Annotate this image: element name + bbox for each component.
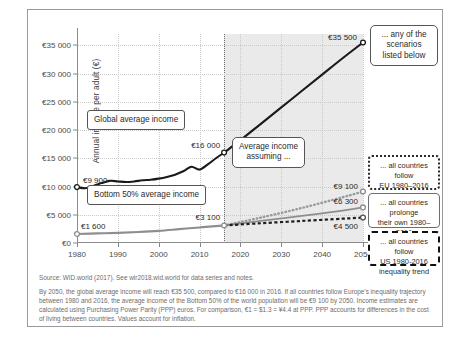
scenario-own-line-1: ... all countries prolonge	[374, 198, 434, 218]
scenario-eu-line-1: ... all countries follow	[375, 161, 433, 181]
assuming-line-1: Average income	[239, 142, 298, 152]
x-tick-label: 1990	[109, 250, 127, 259]
value-label-global-2050: €35 500	[328, 33, 357, 42]
callout-average-income-assuming: Average income assuming ...	[232, 137, 305, 168]
data-point-marker	[222, 150, 227, 155]
source-line: Source: WID.world (2017). See wir2018.wi…	[39, 273, 432, 282]
scenario-us-line-2: US 1980-2016	[375, 257, 433, 267]
plot-area: €0€5 000€10 000€15 000€20 000€25 000€30 …	[77, 34, 363, 243]
gridline-vertical	[363, 34, 364, 243]
y-tick-label: €15 000	[42, 154, 71, 163]
callout-global-average-income: Global average income	[87, 110, 185, 130]
y-tick-label: €10 000	[42, 182, 71, 191]
value-label-bottom-2016: €3 100	[196, 213, 220, 222]
x-tick-mark	[322, 243, 323, 247]
y-tick-label: €35 000	[42, 41, 71, 50]
y-tick-label: €30 000	[42, 69, 71, 78]
x-tick-mark	[159, 243, 160, 247]
note-body: By 2050, the global average income will …	[39, 287, 432, 323]
data-point-marker	[361, 40, 366, 45]
scenarios-line-1: ... any of the	[377, 30, 431, 40]
scenarios-line-3: listed below	[377, 51, 431, 61]
x-tick-label: 2020	[232, 250, 250, 259]
legend-scenario-us-trend: ... all countries follow US 1980-2016 in…	[368, 231, 440, 266]
scenarios-line-2: scenarios	[377, 40, 431, 50]
value-label-global-2016: €16 000	[191, 141, 220, 150]
value-label-eu-2050: €9 100	[334, 182, 358, 191]
x-tick-mark	[281, 243, 282, 247]
notes-block: Source: WID.world (2017). See wir2018.wi…	[39, 273, 432, 323]
series-lines	[77, 34, 363, 243]
scenario-eu-line-2: EU 1980–2016	[375, 181, 433, 191]
data-point-marker	[361, 189, 366, 194]
value-label-us-2050: €4 500	[334, 222, 358, 231]
data-point-marker	[222, 223, 227, 228]
x-tick-mark	[240, 243, 241, 247]
scenario-us-line-1: ... all countries follow	[375, 237, 433, 257]
data-point-marker	[75, 185, 80, 190]
figure-root: Source: WID.world (2017). See wir2018.wi…	[0, 0, 471, 341]
callout-any-of-the-scenarios: ... any of the scenarios listed below	[370, 25, 438, 66]
value-label-global-1980: €9 900	[83, 176, 107, 185]
x-tick-label: 2010	[191, 250, 209, 259]
x-tick-label: 2040	[313, 250, 331, 259]
legend-scenario-own-trend: ... all countries prolonge their own 198…	[368, 193, 440, 228]
callout-bottom-50-average-income: Bottom 50% average income	[87, 185, 206, 205]
y-tick-label: €20 000	[42, 126, 71, 135]
x-tick-label: 2030	[272, 250, 290, 259]
y-tick-label: €0	[62, 239, 71, 248]
y-tick-label: €25 000	[42, 97, 71, 106]
scenario-us-line-3: inequality trend	[375, 267, 433, 277]
value-label-bottom-1980: €1 600	[81, 222, 105, 231]
data-point-marker	[361, 215, 366, 220]
x-tick-label: 1980	[68, 250, 86, 259]
data-point-marker	[75, 232, 80, 237]
x-tick-mark	[77, 243, 78, 247]
legend-scenario-eu-trend: ... all countries follow EU 1980–2016 in…	[368, 155, 440, 190]
data-point-marker	[361, 205, 366, 210]
value-label-own-2050: €6 300	[334, 197, 358, 206]
x-tick-label: 2000	[150, 250, 168, 259]
x-tick-mark	[118, 243, 119, 247]
x-tick-mark	[200, 243, 201, 247]
assuming-line-2: assuming ...	[239, 152, 298, 162]
y-tick-label: €5 000	[47, 210, 71, 219]
x-tick-mark	[363, 243, 364, 247]
